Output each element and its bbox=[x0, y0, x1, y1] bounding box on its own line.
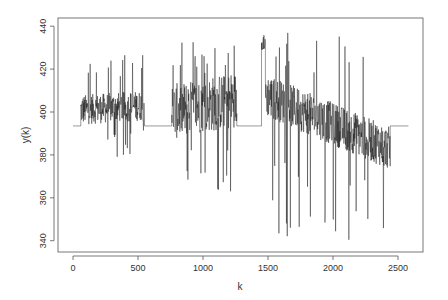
series-line bbox=[73, 33, 408, 240]
x-tick-label: 2500 bbox=[388, 263, 408, 273]
x-axis-label: k bbox=[238, 281, 244, 292]
x-tick-label: 1000 bbox=[193, 263, 213, 273]
y-tick-label: 360 bbox=[38, 190, 48, 205]
y-axis-label: y(k) bbox=[20, 127, 31, 144]
y-tick-label: 340 bbox=[38, 233, 48, 248]
time-series-chart: 05001000150020002500 340360380400420440 … bbox=[0, 0, 448, 300]
y-tick-label: 380 bbox=[38, 147, 48, 162]
y-tick-label: 420 bbox=[38, 62, 48, 77]
x-tick-label: 2000 bbox=[323, 263, 343, 273]
x-tick-label: 1500 bbox=[258, 263, 278, 273]
y-axis: 340360380400420440 bbox=[38, 19, 54, 249]
x-tick-label: 0 bbox=[70, 263, 75, 273]
x-axis: 05001000150020002500 bbox=[70, 256, 408, 273]
y-tick-label: 440 bbox=[38, 19, 48, 34]
plot-frame bbox=[58, 18, 423, 252]
x-tick-label: 500 bbox=[130, 263, 145, 273]
y-tick-label: 400 bbox=[38, 104, 48, 119]
